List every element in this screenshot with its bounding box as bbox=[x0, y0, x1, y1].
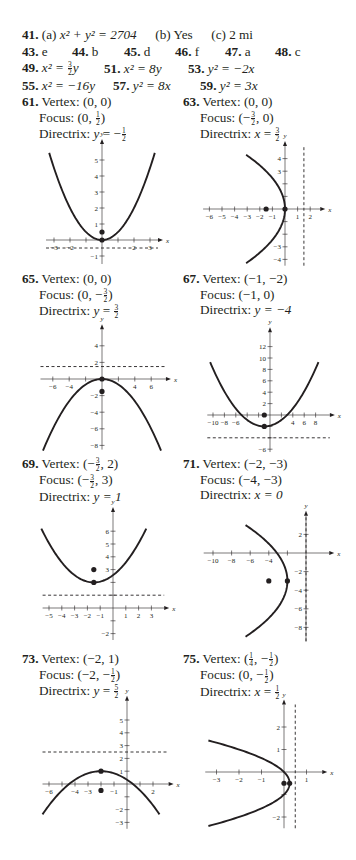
coordinate-prefix: ( bbox=[244, 651, 248, 666]
problem-73: 73. Vertex: (−2, 1)Focus: (−2, −12)Direc… bbox=[22, 651, 120, 699]
directrix-label: Directrix: bbox=[39, 303, 90, 318]
focus-label: Focus: bbox=[39, 667, 74, 682]
answer-48: 48. c bbox=[275, 44, 301, 59]
x-tick-label: −3 bbox=[243, 213, 251, 221]
parabola-graph-69: xy−5−4−3−2−1123−23456 bbox=[38, 515, 173, 640]
vertex-line: 75. Vertex: (14, −12) bbox=[183, 651, 280, 667]
fraction-numerator: 1 bbox=[111, 668, 115, 675]
problem-number: 61. bbox=[22, 94, 38, 109]
focus-line: Focus: (−2, −12) bbox=[22, 667, 120, 683]
answer-45: 45. d bbox=[124, 44, 150, 59]
x-tick-label: 2 bbox=[137, 612, 141, 620]
parabola-graph-71: xy−10−8−6−4−8−6−4−22 bbox=[200, 510, 356, 650]
vertex-label: Vertex: bbox=[42, 271, 80, 286]
directrix-line: Directrix: x = 12 bbox=[183, 684, 280, 700]
fraction: 12 bbox=[265, 669, 269, 684]
answer-part-a-equation: x² + y² = 2704 bbox=[60, 27, 137, 42]
answer-value: b bbox=[92, 44, 99, 59]
focus-line: Focus: (−32, 0) bbox=[183, 110, 280, 126]
answer-number: 57. bbox=[113, 78, 129, 93]
fraction-numerator: 3 bbox=[104, 288, 108, 295]
vertex-label: Vertex: bbox=[42, 94, 80, 109]
y-tick-label: 12 bbox=[259, 343, 267, 351]
y-tick-label: −2 bbox=[116, 806, 124, 814]
fraction-denominator: 2 bbox=[269, 659, 273, 667]
y-axis-arrow-icon bbox=[304, 511, 308, 516]
y-tick-label: 2 bbox=[263, 400, 267, 408]
x-axis-arrow-icon bbox=[329, 551, 334, 555]
x-tick-label: −3 bbox=[84, 788, 92, 796]
x-tick-label: 1 bbox=[124, 612, 128, 620]
y-tick-label: −4 bbox=[91, 409, 99, 417]
y-tick-label: 10 bbox=[259, 355, 267, 363]
coordinate-value: (−32, 3) bbox=[77, 472, 112, 487]
answer-46: 46. f bbox=[175, 44, 199, 59]
fraction: 32 bbox=[96, 457, 100, 472]
fraction: 14 bbox=[249, 652, 253, 667]
vertex-line: 67. Vertex: (−1, −2) bbox=[183, 271, 291, 287]
fraction-numerator: 1 bbox=[265, 669, 269, 676]
fraction-denominator: 2 bbox=[68, 68, 72, 76]
directrix-label: Directrix: bbox=[200, 302, 251, 317]
problem-number: 65. bbox=[22, 271, 38, 286]
fraction-numerator: 3 bbox=[96, 457, 100, 464]
coordinate-prefix: (−2, − bbox=[77, 667, 109, 682]
fraction: 32 bbox=[114, 304, 118, 319]
y-tick-label: 5 bbox=[120, 717, 124, 725]
x-tick-label: 6 bbox=[302, 419, 306, 427]
y-tick-label: −6 bbox=[295, 605, 303, 613]
coordinate-suffix: ) bbox=[274, 651, 278, 666]
x-tick-label: −8 bbox=[228, 557, 236, 565]
fraction-denominator: 2 bbox=[96, 118, 100, 126]
focus-line: Focus: (0, 12) bbox=[22, 110, 127, 126]
directrix-label: Directrix: bbox=[39, 489, 90, 504]
x-axis-arrow-icon bbox=[158, 238, 163, 242]
fraction: 12 bbox=[275, 685, 279, 700]
vertex-point bbox=[282, 206, 287, 211]
y-axis-label: y bbox=[283, 132, 288, 140]
y-axis-label: y bbox=[268, 318, 273, 326]
y-tick-label: −4 bbox=[274, 256, 282, 264]
y-axis-arrow-icon bbox=[100, 139, 104, 144]
answer-number: 59. bbox=[200, 78, 216, 93]
answer-lhs: x² = bbox=[42, 60, 67, 75]
x-axis-arrow-icon bbox=[169, 782, 174, 786]
coordinate-value: (0, 0) bbox=[83, 271, 112, 286]
x-axis-arrow-icon bbox=[166, 377, 171, 381]
x-axis-label: x bbox=[165, 237, 170, 245]
x-tick-label: −10 bbox=[208, 557, 219, 565]
problem-71: 71. Vertex: (−2, −3)Focus: (−4, −3)Direc… bbox=[183, 456, 287, 503]
parabola-graph-63: xy−6−5−4−3−2−112−4−334 bbox=[200, 140, 356, 265]
x-tick-label: 4 bbox=[291, 419, 295, 427]
y-tick-label: 1 bbox=[120, 768, 124, 776]
fraction-numerator: 3 bbox=[114, 304, 118, 311]
y-tick-label: 1 bbox=[95, 221, 99, 229]
y-tick-label: 2 bbox=[299, 531, 303, 539]
problem-67: 67. Vertex: (−1, −2)Focus: (−1, 0)Direct… bbox=[183, 271, 291, 318]
y-tick-label: 6 bbox=[106, 528, 110, 536]
x-tick-label: −4 bbox=[71, 788, 79, 796]
answer-number: 46. bbox=[175, 44, 191, 59]
answer-row-41: 41. (a) x² + y² = 2704 (b) Yes (c) 2 mi bbox=[22, 27, 253, 42]
x-tick-label: −1 bbox=[96, 612, 104, 620]
focus-label: Focus: bbox=[200, 472, 235, 487]
fraction-denominator: 2 bbox=[265, 676, 269, 684]
x-tick-label: 1 bbox=[296, 213, 300, 221]
parabola-graph-67: xy−10−8−6468−624681012 bbox=[200, 325, 356, 452]
x-axis-arrow-icon bbox=[322, 770, 327, 774]
coordinate-suffix: ) bbox=[101, 110, 105, 125]
x-tick-label: −5 bbox=[45, 612, 53, 620]
y-tick-label: −8 bbox=[295, 624, 303, 632]
coordinate-value: (−2, −12) bbox=[77, 667, 120, 682]
x-axis-label: x bbox=[329, 769, 334, 777]
coordinate-suffix: , 0) bbox=[256, 110, 274, 125]
vertex-point bbox=[262, 424, 267, 429]
coordinate-value: (0, 0) bbox=[83, 94, 112, 109]
vertex-label: Vertex: bbox=[203, 94, 241, 109]
answer-number: 47. bbox=[225, 44, 241, 59]
x-tick-label: −3 bbox=[213, 776, 221, 784]
answer-49: 49. x² = 32y bbox=[22, 60, 79, 76]
directrix-line: Directrix: y = −4 bbox=[183, 302, 291, 318]
x-tick-label: −4 bbox=[231, 213, 239, 221]
y-tick-label: −3 bbox=[274, 243, 282, 251]
